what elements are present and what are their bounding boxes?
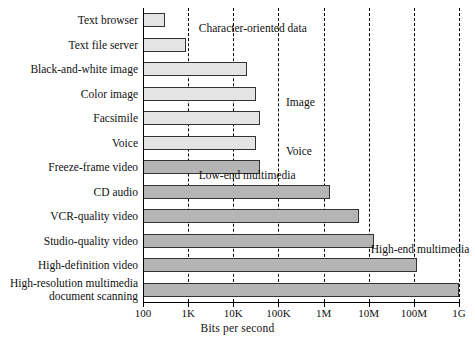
bar (143, 13, 165, 27)
gridline (459, 8, 460, 302)
y-axis-label: Black-and-white image (0, 63, 138, 76)
bar (143, 185, 330, 199)
x-tick-label: 1G (429, 307, 475, 319)
bar (143, 209, 359, 223)
chart-annotation: High-end multimedia (371, 243, 470, 255)
y-axis-label: VCR-quality video (0, 210, 138, 223)
bar-chart: Text browserText file serverBlack-and-wh… (0, 0, 475, 344)
chart-annotation: Voice (286, 145, 312, 157)
y-axis-line (143, 8, 144, 303)
y-axis-label: Freeze-frame video (0, 161, 138, 174)
bar (143, 283, 459, 297)
chart-annotation: Character-oriented data (199, 22, 307, 34)
bar (143, 111, 260, 125)
bar (143, 62, 247, 76)
x-axis-line (143, 302, 460, 303)
bar (143, 258, 417, 272)
x-axis-title: Bits per second (0, 322, 475, 334)
y-axis-label: CD audio (0, 186, 138, 199)
y-axis-label: Studio-quality video (0, 235, 138, 248)
y-axis-label: Text file server (0, 39, 138, 52)
y-axis-label: High-definition video (0, 259, 138, 272)
bar (143, 136, 256, 150)
bar (143, 234, 374, 248)
y-axis-label: High-resolution multimedia document scan… (0, 277, 138, 302)
chart-annotation: Image (286, 96, 315, 108)
plot-area: Character-oriented dataImageVoiceLow-end… (143, 8, 459, 302)
y-axis-label: Facsimile (0, 112, 138, 125)
y-axis-label: Voice (0, 137, 138, 150)
bar (143, 87, 256, 101)
bar (143, 38, 186, 52)
chart-annotation: Low-end multimedia (199, 169, 296, 181)
y-axis-label: Color image (0, 88, 138, 101)
y-axis-label: Text browser (0, 14, 138, 27)
